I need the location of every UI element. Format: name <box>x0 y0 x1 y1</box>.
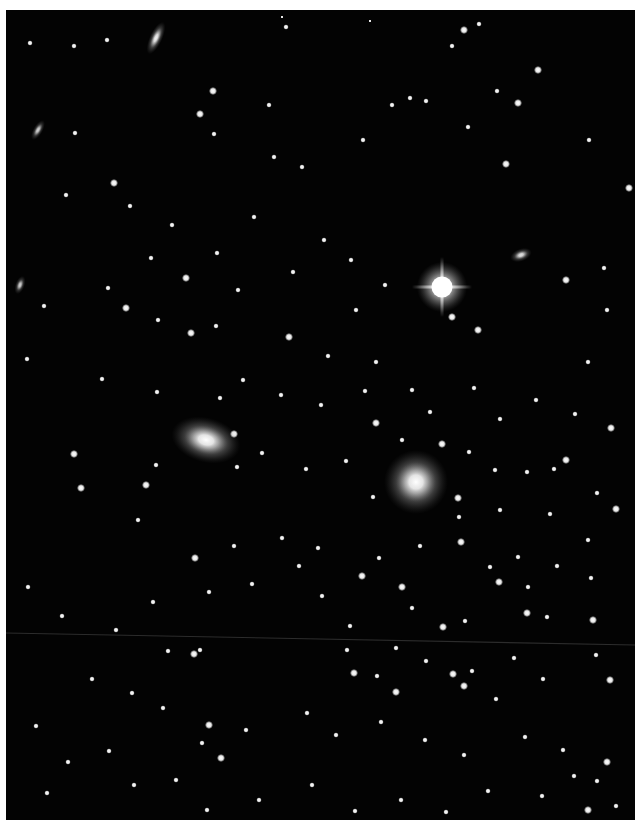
star <box>65 759 70 764</box>
star <box>360 137 365 142</box>
star <box>493 696 498 701</box>
star <box>398 583 406 591</box>
star <box>594 778 599 783</box>
star <box>539 793 544 798</box>
star <box>625 184 633 192</box>
star <box>266 102 271 107</box>
star <box>497 507 502 512</box>
star <box>333 732 338 737</box>
star <box>190 650 198 658</box>
star <box>71 43 76 48</box>
star <box>571 773 576 778</box>
star <box>585 537 590 542</box>
star <box>348 257 353 262</box>
star <box>196 110 204 118</box>
star <box>234 464 239 469</box>
star <box>191 554 199 562</box>
star <box>417 543 422 548</box>
star <box>373 359 378 364</box>
star <box>240 377 245 382</box>
star <box>399 437 404 442</box>
star <box>427 409 432 414</box>
star <box>471 385 476 390</box>
star <box>33 723 38 728</box>
star <box>449 670 457 678</box>
star <box>213 323 218 328</box>
star <box>443 809 448 814</box>
star <box>439 623 447 631</box>
star <box>148 255 153 260</box>
star <box>382 282 387 287</box>
star <box>199 740 204 745</box>
star <box>370 494 375 499</box>
star <box>456 514 461 519</box>
star <box>485 788 490 793</box>
star <box>603 758 611 766</box>
star <box>343 458 348 463</box>
star <box>547 511 552 516</box>
star <box>211 131 216 136</box>
star <box>344 647 349 652</box>
star <box>534 66 542 74</box>
star <box>25 584 30 589</box>
astronomical-photograph <box>6 10 635 820</box>
star <box>398 797 403 802</box>
star <box>72 130 77 135</box>
star <box>281 16 284 19</box>
star <box>27 40 32 45</box>
star <box>299 164 304 169</box>
star <box>457 538 465 546</box>
galaxy <box>28 118 48 142</box>
star <box>448 313 456 321</box>
star <box>325 353 330 358</box>
star <box>251 214 256 219</box>
star <box>110 179 118 187</box>
star <box>409 605 414 610</box>
star <box>560 747 565 752</box>
star <box>407 95 412 100</box>
star <box>70 450 78 458</box>
scan-line <box>6 633 635 645</box>
star <box>217 754 225 762</box>
star <box>296 563 301 568</box>
star <box>131 782 136 787</box>
star <box>476 21 481 26</box>
star <box>449 43 454 48</box>
star <box>169 222 174 227</box>
star <box>533 397 538 402</box>
star <box>462 618 467 623</box>
star <box>607 424 615 432</box>
star <box>204 807 209 812</box>
star <box>524 469 529 474</box>
star <box>309 782 314 787</box>
star <box>160 705 165 710</box>
star <box>187 329 195 337</box>
star <box>235 287 240 292</box>
star <box>59 613 64 618</box>
star <box>589 616 597 624</box>
star <box>511 655 516 660</box>
star <box>551 466 556 471</box>
star <box>601 265 606 270</box>
star <box>217 395 222 400</box>
star <box>319 593 324 598</box>
star <box>522 734 527 739</box>
star <box>438 440 446 448</box>
star <box>205 721 213 729</box>
star <box>378 719 383 724</box>
star <box>315 545 320 550</box>
star <box>544 614 549 619</box>
galaxy <box>12 274 28 295</box>
bright-star-with-diffraction-spikes <box>412 257 472 317</box>
star <box>142 481 150 489</box>
star <box>392 688 400 696</box>
star <box>562 456 570 464</box>
star <box>474 326 482 334</box>
star <box>63 192 68 197</box>
star <box>502 160 510 168</box>
star <box>572 411 577 416</box>
star <box>290 269 295 274</box>
star <box>106 748 111 753</box>
star <box>497 416 502 421</box>
star <box>89 676 94 681</box>
